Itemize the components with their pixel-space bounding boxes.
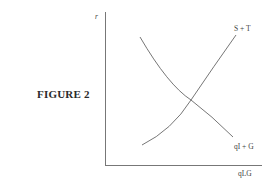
s-plus-t-label: S + T xyxy=(234,24,251,33)
y-axis-label: r xyxy=(95,12,98,21)
x-axis-label: qLG xyxy=(238,169,252,178)
chart-canvas: r S + T qI + G qLG xyxy=(0,0,276,192)
qi-plus-g-label: qI + G xyxy=(234,142,254,151)
curve-qi-plus-g xyxy=(140,37,233,137)
curve-s-plus-t xyxy=(142,35,236,145)
